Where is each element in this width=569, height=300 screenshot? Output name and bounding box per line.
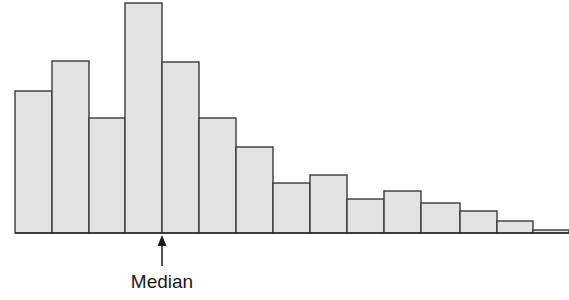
- histogram-bar: [52, 61, 89, 233]
- histogram-bar: [162, 62, 199, 233]
- histogram-bar: [89, 118, 125, 233]
- histogram-bar: [347, 199, 384, 233]
- histogram-figure: Median: [0, 0, 569, 300]
- histogram-bar: [125, 3, 162, 233]
- median-label: Median: [131, 271, 193, 292]
- histogram-bar: [199, 118, 236, 233]
- histogram-bar: [384, 191, 421, 233]
- histogram-bar: [421, 203, 460, 233]
- histogram-bar: [236, 147, 273, 233]
- histogram-bar: [310, 175, 347, 233]
- up-arrow-head-icon: [158, 235, 167, 246]
- histogram-bars: [15, 3, 569, 233]
- histogram-bar: [273, 183, 310, 233]
- histogram-chart: Median: [0, 0, 569, 300]
- histogram-bar: [460, 211, 497, 233]
- histogram-bar: [15, 91, 52, 233]
- median-annotation: Median: [131, 235, 193, 292]
- histogram-bar: [497, 221, 533, 233]
